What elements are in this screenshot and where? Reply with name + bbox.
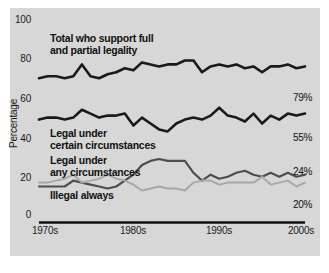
chart-container: 100806040200 1970s1980s1990s2000s Percen… [0,0,329,273]
x-axis-tick-label: 1970s [22,225,68,236]
series-end-label: 79% [293,92,312,103]
series-end-label: 20% [293,199,312,210]
series-label: Illegal always [50,190,114,202]
series-label: Total who support full and partial legal… [50,33,153,56]
y-axis-tick-label: 0 [5,209,31,220]
x-axis-tick-label: 1980s [110,225,156,236]
y-axis-tick-label: 100 [5,14,31,25]
series-label: Legal under any circumstances [50,155,140,178]
series-end-label: 24% [293,166,312,177]
y-axis-tick-label: 80 [5,53,31,64]
series-label: Legal under certain circumstances [50,128,156,151]
series-end-label: 55% [293,132,312,143]
x-axis-tick-label: 1990s [196,225,242,236]
x-axis-tick-label: 2000s [278,225,324,236]
series-line [39,61,305,79]
y-axis-tick-label: 20 [5,172,31,183]
y-axis-title: Percentage [8,89,19,159]
